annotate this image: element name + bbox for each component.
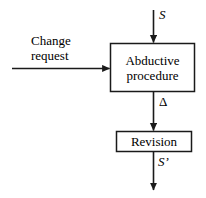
edge-label-input-s: S: [159, 8, 166, 22]
box-revision-outline: [117, 132, 192, 152]
box-abductive-procedure-outline: [111, 44, 195, 92]
edge-label-output-s-prime: S’: [158, 155, 169, 169]
edge-label-delta: Δ: [159, 95, 167, 109]
diagram-vector-layer: [0, 0, 206, 198]
diagram-canvas: Abductive procedure Revision Change requ…: [0, 0, 206, 198]
edge-label-change-request: Change request: [31, 33, 103, 63]
